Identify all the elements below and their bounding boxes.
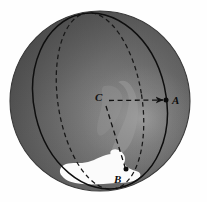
point-label-c: C bbox=[95, 92, 102, 103]
point-label-a: A bbox=[172, 95, 179, 106]
point-b-marker bbox=[124, 167, 129, 172]
point-a-marker bbox=[164, 98, 169, 103]
point-label-b: B bbox=[114, 174, 121, 185]
sphere-diagram-figure: A B C bbox=[0, 0, 207, 202]
